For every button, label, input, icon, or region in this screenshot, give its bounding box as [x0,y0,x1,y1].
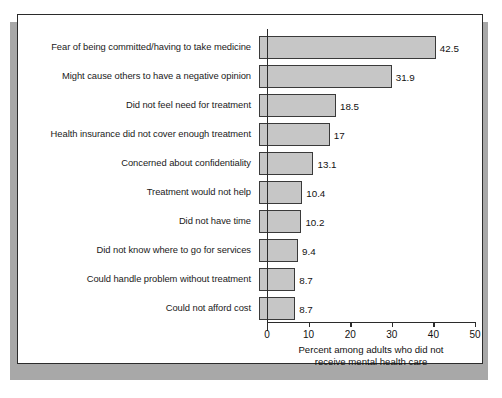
x-axis-tick-label: 40 [428,329,439,340]
bar-track: 9.4 [259,236,482,265]
bar-chart: Fear of being committed/having to take m… [18,15,482,363]
category-label: Could not afford cost [18,303,259,313]
bar [259,36,436,59]
bar-value-label: 42.5 [436,42,459,53]
bar-row: Concerned about confidentiality13.1 [18,149,482,178]
x-axis-line [267,322,475,323]
bar-row: Did not have time10.2 [18,207,482,236]
x-axis-tick-label: 30 [386,329,397,340]
category-label: Concerned about confidentiality [18,158,259,168]
category-label: Could handle problem without treatment [18,274,259,284]
bar [259,210,301,233]
bar-row: Could not afford cost8.7 [18,294,482,323]
bar-value-label: 17 [330,129,345,140]
x-axis-title-line1: Percent among adults who did not [267,344,475,356]
bar-row: Could handle problem without treatment8.… [18,265,482,294]
bar-row: Might cause others to have a negative op… [18,62,482,91]
bar-track: 42.5 [259,33,482,62]
bar-track: 17 [259,120,482,149]
bar-track: 10.4 [259,178,482,207]
bar-value-label: 10.4 [302,187,325,198]
bar-track: 8.7 [259,265,482,294]
bar [259,94,336,117]
bar [259,268,295,291]
bar-value-label: 10.2 [301,216,324,227]
category-label: Treatment would not help [18,187,259,197]
x-axis-tick [433,322,434,327]
category-label: Did not know where to go for services [18,245,259,255]
category-label: Health insurance did not cover enough tr… [18,129,259,139]
bar-value-label: 9.4 [298,245,316,256]
category-label: Did not have time [18,216,259,226]
bar [259,123,330,146]
bar-row: Did not feel need for treatment18.5 [18,91,482,120]
bar-row: Health insurance did not cover enough tr… [18,120,482,149]
bar-row: Fear of being committed/having to take m… [18,33,482,62]
x-axis-tick-label: 10 [303,329,314,340]
category-label: Did not feel need for treatment [18,100,259,110]
bar-value-label: 18.5 [336,100,359,111]
x-axis-tick [475,322,476,327]
bar [259,239,298,262]
x-axis-tick [350,322,351,327]
bar-row: Did not know where to go for services9.4 [18,236,482,265]
bar-row: Treatment would not help10.4 [18,178,482,207]
x-axis-tick [309,322,310,327]
x-axis-tick [392,322,393,327]
x-axis-title: Percent among adults who did not receive… [267,344,475,368]
bar-track: 31.9 [259,62,482,91]
figure-frame: Fear of being committed/having to take m… [17,14,483,364]
bar-track: 10.2 [259,207,482,236]
y-axis-line [267,29,268,331]
figure-root: Fear of being committed/having to take m… [0,0,502,398]
bar-track: 18.5 [259,91,482,120]
bar-value-label: 8.7 [295,303,313,314]
bar [259,297,295,320]
x-axis-title-line2: receive mental health care [267,356,475,368]
x-axis-tick-label: 50 [469,329,480,340]
x-axis-tick [267,322,268,327]
bar-value-label: 8.7 [295,274,313,285]
bar-track: 8.7 [259,294,482,323]
bar-value-label: 13.1 [313,158,336,169]
bar [259,181,302,204]
category-label: Fear of being committed/having to take m… [18,42,259,52]
category-label: Might cause others to have a negative op… [18,71,259,81]
bar-track: 13.1 [259,149,482,178]
x-axis-tick-label: 20 [345,329,356,340]
bar [259,65,392,88]
x-axis-tick-label: 0 [264,329,270,340]
bar-rows: Fear of being committed/having to take m… [18,33,482,323]
bar-value-label: 31.9 [392,71,415,82]
